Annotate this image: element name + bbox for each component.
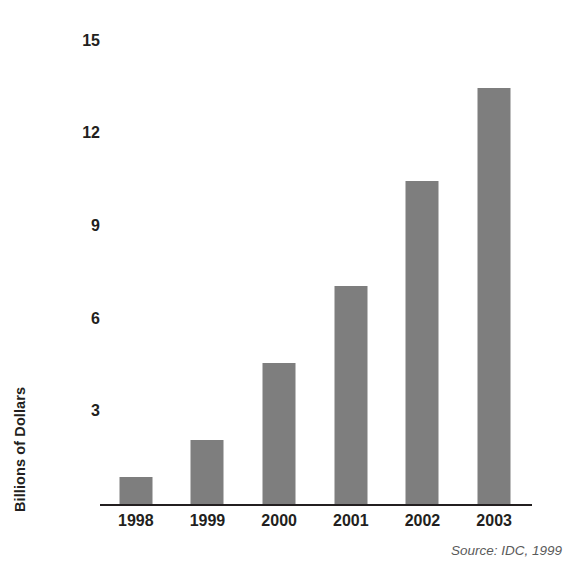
bar-slot [172, 0, 244, 505]
plot-area [100, 0, 530, 505]
y-tick-label: 6 [52, 311, 100, 327]
x-axis-tick-labels: 199819992000200120022003 [100, 509, 530, 537]
bar-2000[interactable] [263, 363, 296, 505]
bar-1998[interactable] [119, 477, 152, 505]
x-tick-label-2003: 2003 [458, 509, 530, 532]
bar-slot [458, 0, 530, 505]
y-tick-label: 3 [52, 403, 100, 419]
x-tick-label-2001: 2001 [315, 509, 387, 532]
x-tick-label-1999: 1999 [172, 509, 244, 532]
bar-2001[interactable] [334, 286, 367, 505]
x-tick-label-2002: 2002 [387, 509, 459, 532]
bar-slot [243, 0, 315, 505]
y-tick-label: 15 [52, 33, 100, 49]
x-axis-line [100, 504, 532, 506]
y-axis-title: Billions of Dollars [0, 0, 40, 577]
y-tick-label: 9 [52, 218, 100, 234]
bar-chart-figure: Billions of Dollars 3691215 199819992000… [0, 0, 580, 577]
source-note: Source: IDC, 1999 [451, 543, 562, 558]
bar-slot [315, 0, 387, 505]
bar-2003[interactable] [478, 88, 511, 505]
y-axis-title-label: Billions of Dollars [12, 387, 28, 512]
bar-2002[interactable] [406, 181, 439, 505]
x-tick-label-1998: 1998 [100, 509, 172, 532]
bar-slot [387, 0, 459, 505]
y-axis-tick-labels: 3691215 [52, 0, 100, 577]
bar-1999[interactable] [191, 440, 224, 505]
y-tick-label: 12 [52, 125, 100, 141]
x-tick-label-2000: 2000 [243, 509, 315, 532]
bar-slot [100, 0, 172, 505]
